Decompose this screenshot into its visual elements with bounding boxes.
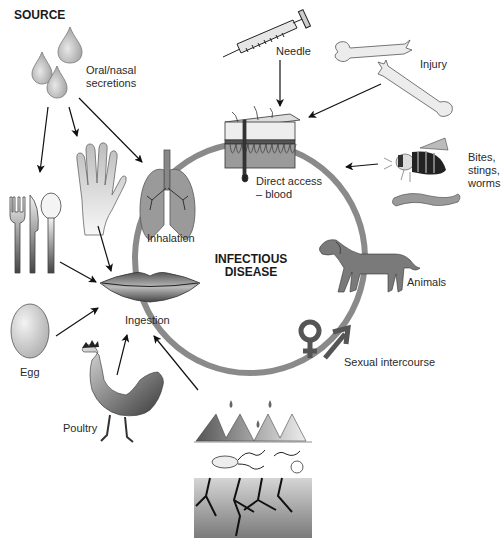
broken-bone-icon bbox=[335, 40, 452, 117]
egg-icon bbox=[11, 304, 49, 358]
label-direct-access-blood: Direct access – blood bbox=[256, 175, 322, 201]
gender-symbols-icon bbox=[301, 322, 348, 358]
utensils-icon bbox=[10, 193, 61, 273]
dog-icon bbox=[319, 240, 420, 292]
source-title: SOURCE bbox=[14, 9, 65, 22]
skin-section-icon bbox=[225, 106, 300, 182]
label-injury: Injury bbox=[420, 58, 447, 71]
bee-worm-icon bbox=[384, 138, 460, 206]
label-needle: Needle bbox=[276, 45, 311, 58]
label-bites-stings-worms: Bites, stings, worms bbox=[468, 151, 500, 190]
label-oral-nasal-secretions: Oral/nasal secretions bbox=[86, 64, 136, 90]
label-inhalation: Inhalation bbox=[147, 232, 195, 245]
soil-water-microbes-icon bbox=[194, 400, 312, 538]
hand-icon bbox=[77, 143, 126, 235]
droplets-icon bbox=[32, 27, 82, 98]
label-ingestion: Ingestion bbox=[125, 314, 170, 327]
label-poultry: Poultry bbox=[63, 422, 97, 435]
label-egg: Egg bbox=[20, 366, 40, 379]
label-animals: Animals bbox=[407, 276, 446, 289]
label-sexual-intercourse: Sexual intercourse bbox=[344, 356, 435, 369]
center-label: INFECTIOUS DISEASE bbox=[210, 253, 292, 279]
lips-icon bbox=[100, 272, 200, 302]
